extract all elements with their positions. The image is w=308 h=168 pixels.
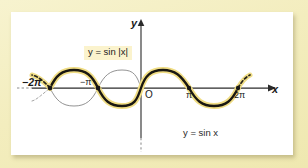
figure-container: y x −2π −π O π 2π y = sin |x| y = sin x bbox=[0, 0, 308, 168]
graph-plot bbox=[0, 0, 308, 168]
y-axis-arrowhead bbox=[138, 19, 145, 26]
tick-marker-neg-pi bbox=[96, 86, 101, 91]
origin-label: O bbox=[145, 90, 153, 100]
sin-x-curve-dash-left bbox=[32, 88, 50, 101]
tick-label-neg-two-pi: −2π bbox=[22, 77, 41, 88]
tick-label-two-pi: 2π bbox=[234, 91, 245, 100]
tick-label-pi: π bbox=[186, 91, 192, 100]
equation-sin-abs-x: y = sin |x| bbox=[84, 46, 132, 60]
tick-label-neg-pi: −π bbox=[80, 78, 91, 87]
equation-sin-x: y = sin x bbox=[183, 128, 218, 139]
y-axis-label: y bbox=[131, 18, 137, 29]
tick-marker-neg-two-pi bbox=[48, 86, 53, 91]
x-axis-label: x bbox=[272, 84, 278, 95]
